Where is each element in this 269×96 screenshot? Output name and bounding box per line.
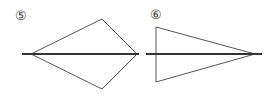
figures-canvas — [0, 0, 269, 96]
